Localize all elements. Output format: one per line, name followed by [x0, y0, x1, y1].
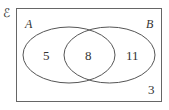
set-a-ellipse — [23, 27, 115, 83]
set-b-only-count: 11 — [126, 49, 139, 62]
set-a-label: A — [25, 18, 32, 30]
set-b-ellipse — [64, 27, 155, 83]
set-b-label: B — [146, 18, 153, 30]
set-a-only-count: 5 — [43, 49, 50, 62]
outside-count: 3 — [148, 83, 155, 96]
universal-set-label: ℰ — [3, 7, 10, 19]
intersection-count: 8 — [85, 49, 92, 62]
